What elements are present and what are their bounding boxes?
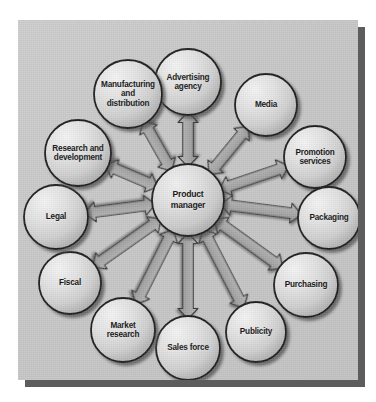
- node-promotion-services[interactable]: [284, 126, 346, 188]
- diagram-panel: Advertising agencyMediaPromotion service…: [18, 20, 358, 380]
- connector-sales-force: [178, 233, 198, 319]
- node-market-research[interactable]: [91, 298, 155, 362]
- connector-packaging: [219, 194, 302, 224]
- node-legal[interactable]: [24, 185, 88, 249]
- connector-promotion-services: [216, 157, 292, 199]
- connector-legal: [83, 194, 156, 223]
- node-sales-force[interactable]: [156, 316, 220, 380]
- node-research-and-development[interactable]: [45, 120, 111, 186]
- diagram-canvas: Advertising agencyMediaPromotion service…: [0, 0, 376, 402]
- node-fiscal[interactable]: [39, 252, 101, 314]
- node-product-manager[interactable]: [152, 164, 224, 236]
- node-purchasing[interactable]: [274, 253, 338, 317]
- connector-advertising-agency: [178, 112, 198, 167]
- diagram-graphics: [18, 20, 358, 380]
- node-manufacturing-and-distribution[interactable]: [94, 60, 162, 128]
- node-publicity[interactable]: [226, 302, 286, 362]
- node-media[interactable]: [235, 74, 297, 136]
- hub-circle: [152, 164, 224, 236]
- node-advertising-agency[interactable]: [155, 49, 221, 115]
- node-packaging[interactable]: [298, 187, 358, 249]
